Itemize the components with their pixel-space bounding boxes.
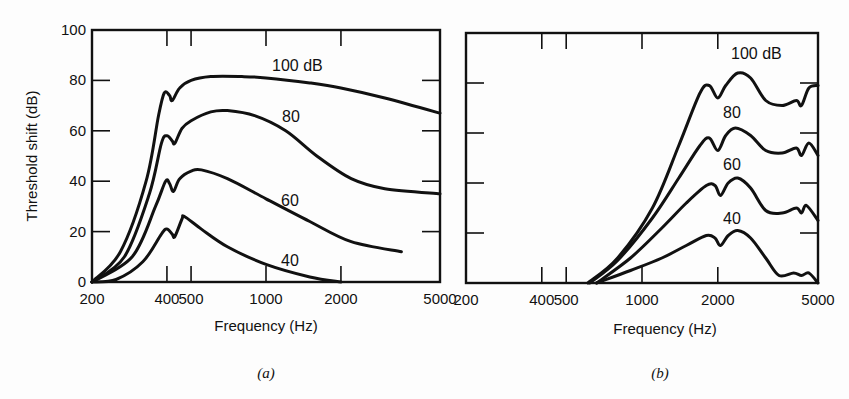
y-tick-label: 60 [69,122,86,139]
panel-a-label-80: 80 [282,108,300,125]
x-tick-label: 5000 [801,291,834,308]
curve-100-db [92,76,440,282]
panel-b-curves [588,73,818,283]
curve-80-db [92,110,440,282]
panel-a-x-axis-title: Frequency (Hz) [214,317,317,334]
panel-a-label-100: 100 dB [272,57,323,74]
x-tick-label: 5000 [423,290,456,307]
panel-a: 020406080100 200400500100020005000 100 d… [23,21,457,382]
panel-a-ticks [92,30,440,282]
x-tick-label: 200 [79,290,104,307]
curve-60-db [597,178,818,283]
x-tick-label: 500 [554,291,579,308]
panel-a-curves [92,76,440,282]
panel-b-label-80: 80 [723,104,741,121]
panel-b-x-axis-title: Frequency (Hz) [613,320,716,337]
panel-a-tag: (a) [257,365,275,382]
x-tick-label: 1000 [625,291,658,308]
curve-100-db [588,73,818,283]
panel-a-label-60: 60 [281,192,299,209]
panel-a-y-tick-labels: 020406080100 [61,21,86,290]
panel-b-label-60: 60 [723,156,741,173]
panel-a-y-axis-title: Threshold shift (dB) [23,91,40,222]
panel-a-x-tick-labels: 200400500100020005000 [79,290,456,307]
panel-b: 200400500100020005000 100 dB 80 60 40 Fr… [453,33,834,382]
x-tick-label: 2000 [324,290,357,307]
y-tick-label: 100 [61,21,86,38]
threshold-shift-figure: 020406080100 200400500100020005000 100 d… [0,0,849,399]
x-tick-label: 2000 [701,291,734,308]
curve-80-db [590,128,818,283]
panel-a-frame [92,30,440,282]
x-tick-label: 400 [154,290,179,307]
x-tick-label: 1000 [249,290,282,307]
panel-b-x-tick-labels: 200400500100020005000 [453,291,834,308]
panel-b-tag: (b) [651,365,669,382]
panel-b-label-100: 100 dB [731,45,782,62]
panel-a-label-40: 40 [281,252,299,269]
y-tick-label: 80 [69,71,86,88]
x-tick-label: 400 [529,291,554,308]
panel-b-label-40: 40 [723,210,741,227]
x-tick-label: 200 [453,291,478,308]
y-tick-label: 40 [69,172,86,189]
x-tick-label: 500 [179,290,204,307]
y-tick-label: 20 [69,223,86,240]
y-tick-label: 0 [78,273,86,290]
